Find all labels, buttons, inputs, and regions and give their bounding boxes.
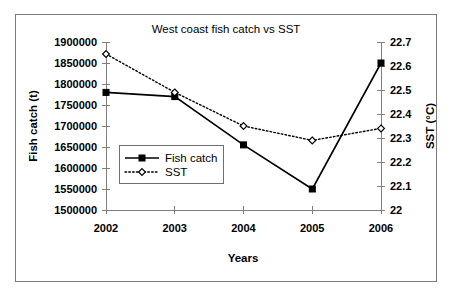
y2-axis-label: SST (°C): [424, 103, 436, 149]
x-tick-label: 2004: [231, 222, 256, 234]
right-tick-label: 22.7: [390, 36, 411, 48]
data-point-marker: [240, 123, 247, 130]
data-point-marker: [309, 186, 315, 192]
data-point-marker: [103, 51, 110, 58]
legend-label: SST: [165, 166, 187, 178]
x-tick-label: 2006: [369, 222, 393, 234]
left-tick-label: 1550000: [54, 183, 97, 195]
x-tick-label: 2003: [163, 222, 187, 234]
data-point-marker: [241, 142, 247, 148]
chart-title: West coast fish catch vs SST: [152, 23, 301, 35]
data-point-marker: [309, 137, 316, 144]
right-tick-label: 22.5: [390, 84, 411, 96]
left-tick-label: 1600000: [54, 162, 97, 174]
left-tick-label: 1650000: [54, 141, 97, 153]
legend-label: Fish catch: [165, 152, 217, 164]
y-axis-label: Fish catch (t): [27, 90, 39, 162]
chart-legend: Fish catchSST: [119, 145, 223, 183]
right-tick-label: 22: [390, 204, 402, 216]
right-tick-label: 22.1: [390, 180, 411, 192]
data-point-marker: [378, 60, 384, 66]
data-point-marker: [103, 89, 109, 95]
left-tick-label: 1900000: [54, 36, 97, 48]
right-tick-label: 22.3: [390, 132, 411, 144]
right-tick-label: 22.2: [390, 156, 411, 168]
left-axis-ticks: 1900000185000018000001750000170000016500…: [54, 36, 110, 216]
x-axis-label: Years: [228, 252, 259, 264]
left-tick-label: 1750000: [54, 99, 97, 111]
left-tick-label: 1800000: [54, 78, 97, 90]
legend-marker-square: [139, 155, 145, 161]
x-tick-label: 2002: [94, 222, 118, 234]
left-tick-label: 1700000: [54, 120, 97, 132]
right-tick-label: 22.6: [390, 60, 411, 72]
left-tick-label: 1850000: [54, 57, 97, 69]
x-tick-label: 2005: [300, 222, 324, 234]
fish-catch-vs-sst-chart: West coast fish catch vs SST 19000001850…: [0, 0, 453, 297]
data-point-marker: [378, 125, 385, 132]
right-tick-label: 22.4: [390, 108, 412, 120]
series-sst: [103, 51, 385, 144]
left-tick-label: 1500000: [54, 204, 97, 216]
